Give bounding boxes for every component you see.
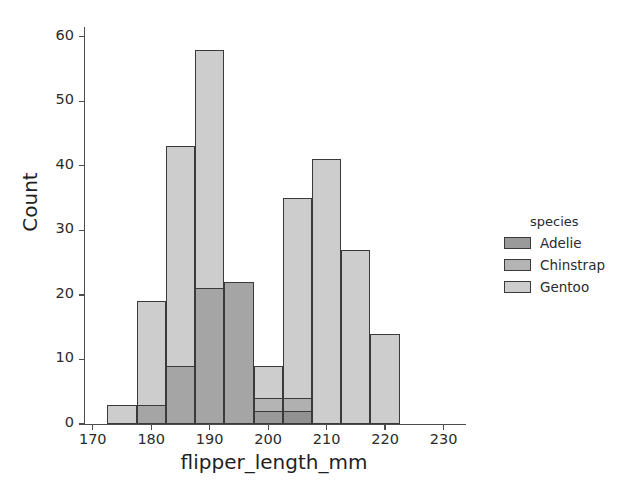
- x-tick-label: 190: [196, 431, 224, 447]
- histogram-bar: [107, 405, 136, 424]
- y-axis-label: Count: [18, 102, 42, 302]
- legend-label: Chinstrap: [540, 257, 605, 273]
- plot-area: [84, 27, 464, 424]
- legend-swatch-icon: [504, 237, 531, 249]
- histogram-bar: [195, 288, 224, 424]
- x-tick-label: 200: [254, 431, 282, 447]
- y-tick-label: 40: [40, 156, 74, 172]
- histogram-bar: [137, 405, 166, 424]
- histogram-bar: [312, 159, 341, 424]
- x-tick-mark: [209, 425, 210, 430]
- x-tick-label: 180: [137, 431, 165, 447]
- y-tick-label: 60: [40, 27, 74, 43]
- x-axis-spine: [84, 424, 466, 425]
- histogram-bar: [370, 334, 399, 424]
- x-tick-mark: [384, 425, 385, 430]
- x-tick-mark: [151, 425, 152, 430]
- y-tick-label: 0: [40, 414, 74, 430]
- legend-item-gentoo: Gentoo: [504, 277, 624, 297]
- y-tick-label: 10: [40, 349, 74, 365]
- x-tick-mark: [268, 425, 269, 430]
- x-tick-label: 220: [371, 431, 399, 447]
- histogram-bar: [283, 198, 312, 424]
- legend-swatch-icon: [504, 281, 531, 293]
- histogram-bar: [166, 366, 195, 424]
- histogram-bar: [341, 250, 370, 424]
- y-tick-label: 50: [40, 91, 74, 107]
- x-tick-mark: [443, 425, 444, 430]
- x-tick-label: 230: [430, 431, 458, 447]
- x-axis-label: flipper_length_mm: [84, 450, 464, 474]
- legend-item-adelie: Adelie: [504, 233, 624, 253]
- legend-items: AdelieChinstrapGentoo: [504, 233, 624, 297]
- histogram-bar: [224, 282, 253, 424]
- legend: species AdelieChinstrapGentoo: [504, 214, 624, 299]
- y-tick-label: 30: [40, 220, 74, 236]
- histogram-bar: [254, 411, 283, 424]
- x-tick-mark: [92, 425, 93, 430]
- x-tick-mark: [326, 425, 327, 430]
- figure-canvas: 0102030405060170180190200210220230 flipp…: [0, 0, 628, 489]
- legend-title: species: [530, 214, 624, 229]
- histogram-bar: [283, 411, 312, 424]
- legend-label: Gentoo: [540, 279, 589, 295]
- x-tick-label: 170: [79, 431, 107, 447]
- x-tick-label: 210: [313, 431, 341, 447]
- legend-label: Adelie: [540, 235, 582, 251]
- legend-item-chinstrap: Chinstrap: [504, 255, 624, 275]
- legend-swatch-icon: [504, 259, 531, 271]
- y-tick-label: 20: [40, 285, 74, 301]
